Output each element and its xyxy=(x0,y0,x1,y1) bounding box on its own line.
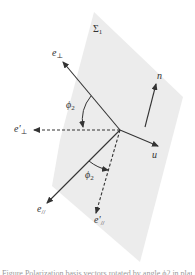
label-sigma1: Σ1 xyxy=(93,24,102,36)
label-e-perp-prime: e′⊥ xyxy=(14,124,27,136)
label-e-parallel: e// xyxy=(37,204,45,216)
label-phi2-lower: ϕ2 xyxy=(85,170,94,182)
polarization-diagram xyxy=(0,0,195,275)
label-phi2-upper: ϕ2 xyxy=(66,100,75,112)
label-e-perp: e⊥ xyxy=(52,48,63,60)
figure-caption: Figure Polarization basis vectors rotate… xyxy=(2,270,192,275)
label-n: n xyxy=(157,71,162,81)
label-e-parallel-prime: e′// xyxy=(94,215,105,227)
label-u: u xyxy=(152,150,157,160)
